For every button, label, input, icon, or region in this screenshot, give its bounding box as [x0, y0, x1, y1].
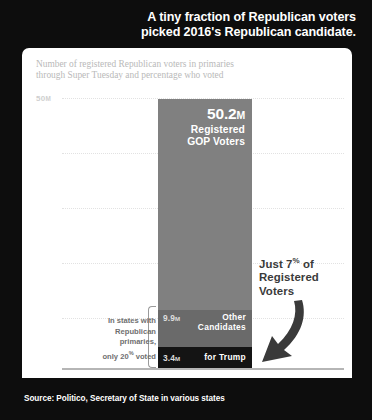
- left-annotation-line-2: Republican: [64, 327, 156, 338]
- right-annotation-line-2: Registered: [259, 271, 352, 284]
- left-annotation: In states with Republican primaries, onl…: [64, 316, 156, 362]
- bar-total-desc-2: GOP Voters: [187, 136, 245, 148]
- other-candidates-name: Other Candidates: [198, 313, 246, 332]
- right-annotation-line-1: Just 7% of: [259, 254, 352, 271]
- title-line-1: A tiny fraction of Republican voters: [0, 10, 356, 25]
- other-candidates-value: 9.9M: [163, 313, 180, 323]
- bar-segment-other-candidates[interactable]: 9.9M Other Candidates: [158, 310, 252, 347]
- source-band: Source: Politico, Secretary of State in …: [0, 378, 372, 420]
- left-annotation-line-3: primaries,: [64, 337, 156, 348]
- right-annotation: Just 7% of Registered Voters: [259, 254, 352, 298]
- bar-total-desc-1: Registered: [187, 124, 245, 136]
- bar-segment-registered-gop[interactable]: 50.2M Registered GOP Voters: [158, 99, 252, 310]
- source-text: Source: Politico, Secretary of State in …: [24, 394, 225, 403]
- for-trump-value: 3.4M: [163, 353, 180, 363]
- subtitle-line-1: Number of registered Republican voters i…: [36, 59, 286, 70]
- plot-area: 50M 50.2M Registered GOP Voters 9.9M Oth…: [36, 94, 344, 370]
- axis-label-50m-unit: M: [46, 95, 52, 102]
- axis-baseline: [62, 368, 344, 370]
- chart-subtitle: Number of registered Republican voters i…: [36, 59, 286, 82]
- right-annotation-line-3: Voters: [259, 285, 352, 298]
- left-annotation-line-1: In states with: [64, 316, 156, 327]
- for-trump-row: 3.4M for Trump: [158, 347, 252, 368]
- infographic-root: A tiny fraction of Republican voters pic…: [0, 0, 372, 420]
- bar-total-value: 50.2M: [187, 105, 245, 124]
- axis-label-50m-value: 50: [36, 94, 46, 103]
- bar-total-label: 50.2M Registered GOP Voters: [187, 105, 245, 147]
- chart-card: Number of registered Republican voters i…: [22, 48, 352, 378]
- other-candidates-name-1: Other: [222, 312, 246, 322]
- stacked-bar: 50.2M Registered GOP Voters 9.9M Other C…: [158, 99, 252, 368]
- axis-label-50m: 50M: [36, 94, 51, 103]
- subtitle-line-2: through Super Tuesday and percentage who…: [36, 70, 286, 81]
- other-candidates-row: 9.9M Other Candidates: [158, 310, 252, 347]
- left-annotation-line-4: only 20% voted: [64, 348, 156, 362]
- title-line-2: picked 2016's Republican candidate.: [0, 25, 356, 40]
- other-candidates-name-2: Candidates: [198, 322, 246, 332]
- bar-segment-for-trump[interactable]: 3.4M for Trump: [158, 347, 252, 368]
- title-band: A tiny fraction of Republican voters pic…: [0, 0, 372, 48]
- curved-arrow-icon: [258, 298, 320, 366]
- for-trump-name: for Trump: [204, 353, 246, 363]
